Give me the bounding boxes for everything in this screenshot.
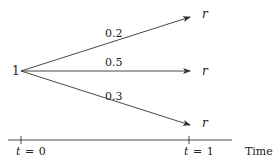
probability-tree-diagram: 1 0.2 0.5 0.3 r r r t = 0 t = 1 Time bbox=[0, 0, 280, 167]
tick-val-t1: 1 bbox=[207, 145, 214, 158]
outcome-label-middle: r bbox=[202, 64, 209, 78]
tick-val-t0: 0 bbox=[39, 145, 46, 158]
tick-eq-t1: = bbox=[193, 145, 202, 158]
tick-label-t0: t = 0 bbox=[16, 145, 46, 158]
tick-var-t0: t bbox=[16, 145, 21, 158]
outcome-label-top: r bbox=[202, 7, 209, 21]
root-label: 1 bbox=[12, 64, 20, 78]
tick-eq-t0: = bbox=[25, 145, 34, 158]
outcome-label-bottom: r bbox=[202, 116, 209, 130]
branch-probability-bottom: 0.3 bbox=[105, 90, 123, 103]
branch-probability-middle: 0.5 bbox=[105, 56, 123, 69]
branch-probability-top: 0.2 bbox=[105, 27, 123, 40]
time-axis-label: Time bbox=[245, 145, 273, 158]
tick-label-t1: t = 1 bbox=[184, 145, 214, 158]
tick-var-t1: t bbox=[184, 145, 189, 158]
